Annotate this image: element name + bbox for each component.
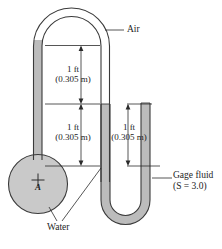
upper-dimension-label: 1 ft (0.305 m) (44, 64, 102, 84)
gage-fluid-label-line2: (S = 3.0) (173, 181, 207, 191)
gage-fluid-label-line1: Gage fluid (173, 170, 213, 180)
gage-fluid-label: Gage fluid (S = 3.0) (173, 170, 213, 192)
middle-dimension-label: 1 ft (0.305 m) (44, 122, 102, 142)
upper-dimension-metric: (0.305 m) (44, 74, 102, 84)
point-a-label: A (35, 182, 41, 192)
water-label: Water (47, 222, 69, 233)
right-tube-gage-fluid-fill (141, 103, 150, 183)
bottom-u-inner-wall (110, 103, 141, 215)
water-leader-line-tube (62, 168, 101, 221)
middle-dimension-metric: (0.305 m) (44, 132, 102, 142)
left-tube-water-fill (34, 40, 43, 160)
descending-tube-fill (101, 104, 110, 182)
right-dimension-label: 1 ft (0.305 m) (100, 122, 158, 142)
right-dimension-metric: (0.305 m) (100, 132, 158, 142)
air-label: Air (127, 24, 140, 35)
middle-dimension-value: 1 ft (67, 122, 79, 132)
right-dimension-value: 1 ft (123, 122, 135, 132)
figure-canvas: Air 1 ft (0.305 m) 1 ft (0.305 m) 1 ft (… (0, 0, 222, 249)
upper-dimension-value: 1 ft (67, 64, 79, 74)
